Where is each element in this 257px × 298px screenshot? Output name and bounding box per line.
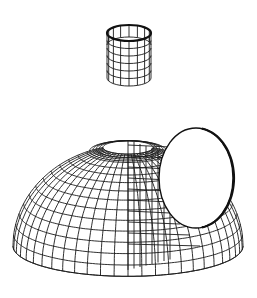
wireframe-drawing [0,0,257,298]
top-nozzle [107,25,151,86]
meridian-line [101,154,123,276]
refinement-line [128,222,180,224]
dome-mesh-figure [0,0,257,298]
meridian-line [13,148,103,247]
meridian-line [114,154,125,276]
meridian-line [33,151,107,263]
refinement-line [128,233,190,235]
